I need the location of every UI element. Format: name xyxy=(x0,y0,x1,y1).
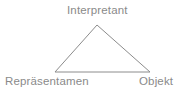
semiotic-triangle-diagram: Interpretant Repräsentamen Objekt xyxy=(0,0,182,95)
node-label-objekt: Objekt xyxy=(139,75,173,88)
node-label-repraesentamen: Repräsentamen xyxy=(5,75,89,88)
node-label-interpretant: Interpretant xyxy=(67,4,128,17)
triangle-outline xyxy=(55,25,150,72)
